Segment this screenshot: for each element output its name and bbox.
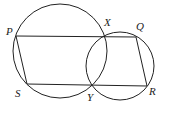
label-y: Y [87,91,95,103]
geometry-diagram: P X Q R Y S [0,0,172,114]
segment-pq [16,36,136,37]
label-x: X [103,16,112,28]
segment-qr [136,37,147,86]
label-p: P [5,25,13,37]
label-s: S [15,87,21,99]
segment-ps [16,36,27,84]
label-q: Q [136,20,144,32]
small-circle [86,32,154,100]
label-r: R [148,85,156,97]
segment-sr [27,84,147,86]
